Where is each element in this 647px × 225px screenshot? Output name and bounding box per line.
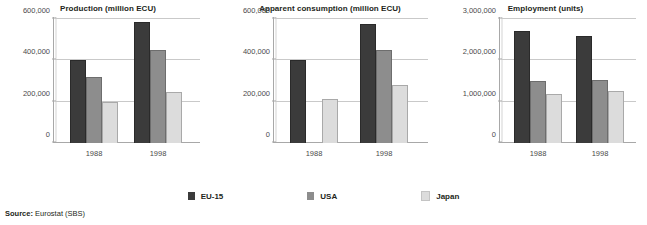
y-axis-tick-mark	[272, 100, 276, 101]
y-axis-tick-mark	[498, 59, 502, 60]
bar-japan	[392, 85, 408, 143]
bar-group: 1998	[134, 19, 182, 143]
bar-japan	[608, 91, 624, 143]
y-axis-tick-mark	[272, 59, 276, 60]
legend-item-japan: Japan	[421, 191, 459, 201]
y-axis-tick-label: 400,000	[243, 47, 270, 56]
bar-usa	[150, 50, 166, 143]
x-axis-tick-label: 1988	[86, 149, 103, 158]
bar-group: 1988	[290, 19, 338, 143]
y-axis-tick-mark	[52, 142, 56, 143]
bar-usa	[376, 50, 392, 143]
y-axis-tick-label: 400,000	[23, 47, 50, 56]
y-axis-production	[53, 17, 54, 143]
y-axis-tick-mark	[272, 18, 276, 19]
y-axis-tick-label: 0	[46, 130, 50, 139]
chart-panel-production: Production (million ECU) 0200,000400,000…	[0, 0, 216, 178]
plot-area-employment: 01,000,0002,000,0003,000,00019881998	[502, 19, 636, 143]
bar-group: 1988	[70, 19, 118, 143]
bar-usa	[530, 81, 546, 143]
x-axis-tick-label: 1988	[306, 149, 323, 158]
y-axis-tick-label: 0	[492, 130, 496, 139]
x-axis-tick-label: 1988	[530, 149, 547, 158]
y-axis-tick-label: 0	[266, 130, 270, 139]
plot-area-apparent-consumption: 0200,000400,000600,00019881998	[276, 19, 428, 143]
chart-panel-employment: Employment (units) 01,000,0002,000,0003,…	[444, 0, 647, 178]
plot-area-production: 0200,000400,000600,00019881998	[56, 19, 200, 143]
legend-item-eu-15: EU-15	[188, 192, 224, 201]
bar-japan	[546, 94, 562, 143]
y-axis-tick-label: 600,000	[23, 6, 50, 15]
bar-japan	[102, 102, 118, 143]
bar-eu-15	[290, 60, 306, 143]
y-axis-tick-mark	[498, 18, 502, 19]
y-axis-tick-label: 600,000	[243, 6, 270, 15]
chart-panels: Production (million ECU) 0200,000400,000…	[0, 0, 647, 178]
y-axis-tick-label: 200,000	[243, 88, 270, 97]
bar-eu-15	[576, 36, 592, 143]
legend-swatch-icon	[421, 191, 430, 201]
bar-eu-15	[70, 60, 86, 143]
legend-label: USA	[320, 192, 337, 201]
y-axis-tick-mark	[52, 100, 56, 101]
bar-usa	[86, 77, 102, 143]
legend-swatch-icon	[307, 192, 314, 200]
y-axis-tick-mark	[52, 18, 56, 19]
bar-eu-15	[514, 31, 530, 143]
legend-item-usa: USA	[307, 192, 337, 201]
legend-label: EU-15	[201, 192, 224, 201]
x-axis-tick-label: 1998	[376, 149, 393, 158]
chart-panel-apparent-consumption: Apparent consumption (million ECU) 0200,…	[216, 0, 444, 178]
legend-swatch-icon	[188, 192, 195, 200]
y-axis-tick-label: 2,000,000	[463, 47, 496, 56]
y-axis-tick-mark	[498, 100, 502, 101]
eurostat-bar-chart-figure: Production (million ECU) 0200,000400,000…	[0, 0, 647, 225]
x-axis-tick-label: 1998	[592, 149, 609, 158]
bar-japan	[322, 99, 338, 143]
bar-group: 1998	[576, 19, 624, 143]
bar-eu-15	[134, 22, 150, 143]
y-axis-tick-mark	[272, 142, 276, 143]
bar-group: 1988	[514, 19, 562, 143]
y-axis-apparent-consumption	[273, 17, 274, 143]
source-value: Eurostat (SBS)	[35, 209, 85, 218]
x-axis-tick-label: 1998	[150, 149, 167, 158]
bar-eu-15	[360, 24, 376, 143]
y-axis-tick-mark	[498, 142, 502, 143]
bar-japan	[166, 92, 182, 143]
source-note: Source: Eurostat (SBS)	[5, 209, 85, 218]
source-label: Source:	[5, 209, 33, 218]
y-axis-tick-mark	[52, 59, 56, 60]
bar-usa	[592, 80, 608, 143]
y-axis-employment	[499, 17, 500, 143]
bar-group: 1998	[360, 19, 408, 143]
y-axis-tick-label: 1,000,000	[463, 88, 496, 97]
legend-label: Japan	[436, 192, 459, 201]
y-axis-tick-label: 3,000,000	[463, 6, 496, 15]
y-axis-tick-label: 200,000	[23, 88, 50, 97]
chart-legend: EU-15USAJapan	[0, 188, 647, 204]
